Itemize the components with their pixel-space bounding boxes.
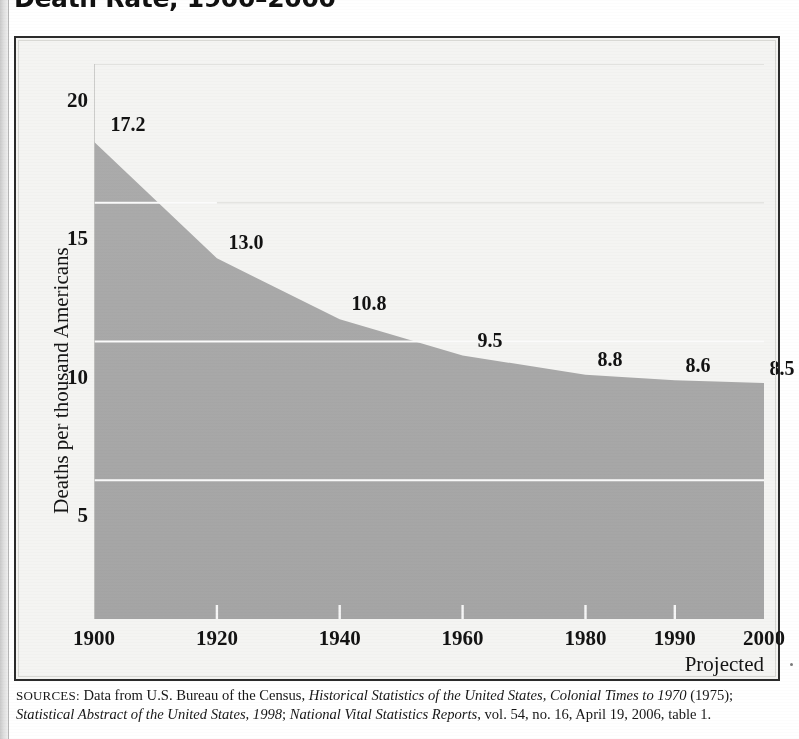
y-tick-label: 10 <box>28 367 88 388</box>
y-tick-label: 15 <box>28 228 88 249</box>
page-edge-line <box>8 0 9 739</box>
sources-note: SOURCES: Data from U.S. Bureau of the Ce… <box>16 686 788 723</box>
x-axis-tick-labels: 1900 1920 1940 1960 1980 1990 2000 <box>94 626 784 656</box>
sources-line2-italic-b: National Vital Statistics Reports <box>290 706 477 722</box>
value-label-1920: 13.0 <box>229 231 264 254</box>
x-tick-label: 2000 <box>743 626 785 651</box>
x-tick-label: 1920 <box>196 626 238 651</box>
sources-line2-italic-a: Statistical Abstract of the United State… <box>16 706 282 722</box>
value-label-1990: 8.6 <box>686 354 711 377</box>
sources-label: SOURCES: <box>16 688 80 703</box>
sources-line1-tail: (1975); <box>687 687 734 703</box>
plot-area: 17.2 13.0 10.8 9.5 8.8 8.6 8.5 <box>94 64 764 619</box>
y-tick-label: 20 <box>28 90 88 111</box>
value-label-1980: 8.8 <box>598 348 623 371</box>
sources-line2-tail: , vol. 54, no. 16, April 19, 2006, table… <box>477 706 711 722</box>
value-label-1960: 9.5 <box>478 329 503 352</box>
x-tick-label: 1990 <box>654 626 696 651</box>
x-tick-label: 1940 <box>319 626 361 651</box>
y-tick-label: 5 <box>28 505 88 526</box>
area-chart-svg <box>94 64 764 619</box>
x-tick-label: 1900 <box>73 626 115 651</box>
area-series-death-rate <box>94 142 764 619</box>
x-tick-label: 1960 <box>442 626 484 651</box>
x-tick-label: 1980 <box>565 626 607 651</box>
value-label-2000: 8.5 <box>770 357 795 380</box>
y-axis-tick-labels: 20 15 10 5 <box>24 64 88 619</box>
sources-line1-text: Data from U.S. Bureau of the Census, <box>80 687 309 703</box>
chart-frame: Deaths per thousand Americans 20 15 10 5 <box>14 36 780 681</box>
projected-annotation: Projected <box>685 652 764 677</box>
page-title: Death Rate, 1900–2000 <box>14 0 514 13</box>
sources-line1-italic: Historical Statistics of the United Stat… <box>309 687 687 703</box>
sources-line2-sep: ; <box>282 706 290 722</box>
value-label-1900: 17.2 <box>111 113 146 136</box>
scan-artifact-dot <box>790 663 793 666</box>
value-label-1940: 10.8 <box>352 292 387 315</box>
